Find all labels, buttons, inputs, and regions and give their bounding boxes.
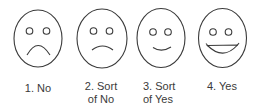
face-sort-of-no-icon — [77, 9, 127, 68]
label-sort-of-no-line2: of No — [80, 93, 122, 106]
face-no-icon — [14, 10, 62, 67]
smiley-rating-scale: 1. No 2. Sort of No 3. Sort of Yes 4. Ye… — [0, 0, 256, 107]
label-yes: 4. Yes — [204, 80, 240, 93]
face-sort-of-yes-icon — [137, 9, 185, 68]
face-yes-icon — [199, 9, 247, 68]
label-sort-of-yes-line2: of Yes — [143, 93, 179, 106]
label-sort-of-no-line1: 2. Sort — [80, 80, 122, 93]
label-yes-line1: 4. Yes — [204, 80, 240, 93]
label-no-line1: 1. No — [20, 82, 56, 95]
label-no: 1. No — [20, 82, 56, 95]
label-sort-of-yes-line1: 3. Sort — [143, 80, 179, 93]
label-sort-of-no: 2. Sort of No — [80, 80, 122, 106]
label-sort-of-yes: 3. Sort of Yes — [143, 80, 179, 106]
